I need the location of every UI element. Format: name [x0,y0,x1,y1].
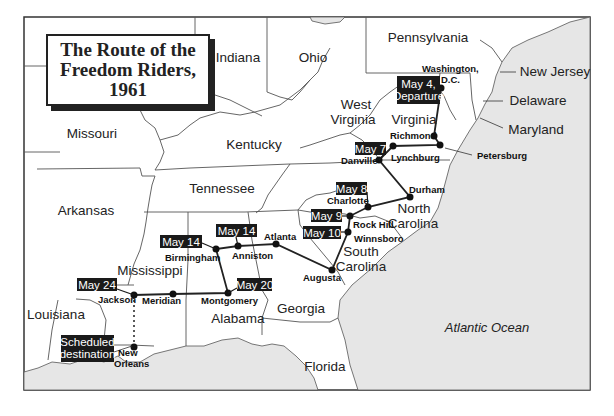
date-label-may-20: May 20 [236,278,274,291]
date-label-may-9: May 9 [311,209,342,222]
state-label: Indiana [216,50,261,65]
city-label: Augusta [303,272,342,283]
state-label: Ohio [299,50,328,65]
ocean-label: Atlantic Ocean [444,320,530,335]
state-label: Georgia [277,301,326,316]
date-label-scheduled-destination: Scheduled destination [60,335,116,362]
state-label: Carolina [388,216,439,231]
title-line-3: 1961 [109,80,147,100]
svg-text:May 20: May 20 [236,279,274,291]
state-label: Virginia [331,112,376,127]
state-label: Arkansas [58,203,115,218]
svg-text:May 14: May 14 [218,225,256,237]
date-label-may-24: May 24 [77,278,117,291]
state-label: Alabama [211,311,265,326]
city-label: Montgomery [201,295,259,306]
state-label: Missouri [67,126,117,141]
svg-text:May 24: May 24 [78,279,116,291]
svg-text:May 10: May 10 [303,227,341,239]
state-label: Tennessee [189,181,254,196]
state-label: Pennsylvania [388,30,469,45]
city-label: Atlanta [264,231,297,242]
city-label: Winnsboro [354,233,404,244]
svg-text:Departure: Departure [393,90,444,102]
svg-text:May 4,: May 4, [401,78,436,90]
state-label: Florida [304,359,346,374]
city-label: Petersburg [477,150,527,161]
city-label: Lynchburg [391,152,440,163]
state-label: Maryland [508,122,564,137]
stop-dot-lynchburg [390,143,397,150]
state-label: Louisiana [27,307,85,322]
date-label-may-14-anniston: May 14 [216,224,257,237]
state-label: Carolina [336,259,387,274]
city-label: Washington, [422,63,479,74]
date-label-may-7: May 7 [355,142,386,155]
city-label: Danville [341,155,377,166]
state-label: West [341,97,372,112]
map-title-box: The Route of the Freedom Riders, 1961 [46,34,210,106]
title-line-1: The Route of the [60,40,196,60]
city-label: Meridian [142,295,181,306]
state-label: Kentucky [226,137,282,152]
state-label: Mississippi [117,263,182,278]
state-label: Delaware [509,93,566,108]
svg-text:May 14: May 14 [162,236,200,248]
city-label: Jackson [98,294,136,305]
date-label-may-14-birmingham: May 14 [160,235,202,248]
state-label: New Jersey [520,64,591,79]
city-label: D.C. [441,74,460,85]
city-label: New [118,347,138,358]
svg-text:May 7: May 7 [355,143,386,155]
date-label-may-4: May 4, Departure [393,76,444,104]
state-label: Virginia [392,112,437,127]
state-label: South [343,244,378,259]
date-label-may-8: May 8 [336,182,367,195]
svg-text:destination: destination [60,348,116,360]
city-label: Charlotte [327,195,369,206]
city-label: Rock Hill [353,219,394,230]
svg-text:May 8: May 8 [336,183,367,195]
city-label: Orleans [114,358,149,369]
svg-text:May 9: May 9 [311,210,342,222]
city-label: Durham [409,184,445,195]
city-label: Anniston [232,250,273,261]
state-label: North [397,201,430,216]
city-label: Richmond [390,130,437,141]
stop-dot-petersburg [437,142,444,149]
date-label-may-10: May 10 [303,226,341,239]
title-line-2: Freedom Riders, [60,60,196,80]
city-label: Birmingham [165,252,220,263]
svg-text:Scheduled: Scheduled [60,336,114,348]
